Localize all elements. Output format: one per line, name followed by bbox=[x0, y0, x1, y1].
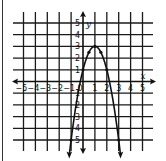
x-tick-label: −2 bbox=[51, 84, 63, 93]
y-tick-label: 3 bbox=[75, 42, 80, 51]
y-tick-label: 5 bbox=[75, 19, 80, 28]
curve-point bbox=[99, 51, 102, 54]
curve-point bbox=[93, 45, 96, 48]
curve-point bbox=[70, 138, 73, 141]
x-tick-label: 2 bbox=[104, 84, 109, 93]
y-tick-label: 2 bbox=[75, 54, 80, 63]
x-tick-label: 4 bbox=[128, 84, 133, 93]
y-tick-label: 1 bbox=[75, 66, 80, 75]
x-tick-label: 3 bbox=[116, 84, 121, 93]
y-tick-label: 3 bbox=[75, 113, 80, 122]
x-axis-label: x bbox=[141, 71, 146, 81]
curve-point bbox=[117, 138, 120, 141]
y-tick-label: 5 bbox=[75, 136, 80, 145]
y-axis-label: y bbox=[85, 19, 92, 29]
curve-point bbox=[105, 68, 108, 71]
y-tick-label: 4 bbox=[75, 31, 80, 40]
y-tick-label: 4 bbox=[75, 124, 80, 133]
curve-point bbox=[81, 68, 84, 71]
x-tick-label: −3 bbox=[39, 84, 51, 93]
x-tick-label: −5 bbox=[16, 84, 28, 93]
x-tick-label: 5 bbox=[140, 84, 145, 93]
x-tick-label: −1 bbox=[63, 84, 75, 93]
x-tick-label: 1 bbox=[92, 84, 97, 93]
x-tick-label: −4 bbox=[28, 84, 40, 93]
axes bbox=[12, 11, 156, 154]
curve-point bbox=[87, 51, 90, 54]
parabola-chart: −5−4−3−2−1012345 5432112345 x y bbox=[0, 0, 166, 161]
